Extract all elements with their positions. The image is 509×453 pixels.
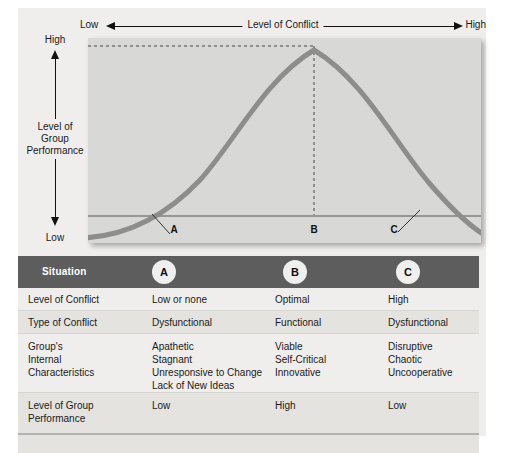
- table-header-row: Situation A B C: [18, 256, 479, 288]
- row-label: Level of Group Performance: [28, 399, 148, 425]
- plot-area: A B C: [88, 38, 481, 243]
- x-axis-left-arrow-icon: [106, 22, 115, 30]
- row-label: Level of Conflict: [28, 293, 148, 306]
- x-axis: Low Level of Conflict High: [80, 18, 486, 36]
- y-axis-high-label: High: [24, 34, 86, 45]
- plot-marker-a: A: [170, 224, 177, 235]
- performance-curve: [88, 50, 481, 238]
- row-value-b: Viable Self-Critical Innovative: [275, 340, 387, 379]
- y-axis-up-arrow-icon: [51, 50, 59, 59]
- table-row: Type of Conflict Dysfunctional Functiona…: [18, 311, 479, 334]
- y-axis-title-line-2: Group: [21, 133, 89, 145]
- table-header-badge-c: C: [396, 260, 420, 284]
- row-value-b: High: [275, 399, 387, 412]
- y-axis-title-line-3: Performance: [21, 145, 89, 157]
- plot-marker-b: B: [310, 224, 317, 235]
- y-axis-down-arrow-icon: [51, 217, 59, 226]
- x-axis-title: Level of Conflict: [242, 19, 323, 30]
- y-axis-title-line-1: Level of: [21, 121, 89, 133]
- plot-marker-c: C: [390, 224, 397, 235]
- marker-a-leader-line: [152, 214, 170, 234]
- table-row: Group's Internal Characteristics Apathet…: [18, 334, 479, 393]
- row-value-b: Optimal: [275, 293, 387, 306]
- y-axis-title: Level of Group Performance: [21, 119, 89, 159]
- row-value-a: Dysfunctional: [152, 316, 277, 329]
- row-value-a: Low or none: [152, 293, 277, 306]
- x-axis-low-label: Low: [80, 19, 98, 30]
- table-bottom-rule: [18, 433, 479, 435]
- table-header-badge-b: B: [283, 260, 307, 284]
- x-axis-right-arrow-icon: [454, 22, 463, 30]
- row-value-c: Disruptive Chaotic Uncooperative: [388, 340, 483, 379]
- row-label: Group's Internal Characteristics: [28, 340, 148, 379]
- table-header-title: Situation: [42, 266, 87, 277]
- y-axis-low-label: Low: [24, 232, 86, 243]
- row-value-c: Dysfunctional: [388, 316, 483, 329]
- x-axis-high-label: High: [465, 19, 486, 30]
- row-value-a: Low: [152, 399, 277, 412]
- marker-c-leader-line: [398, 210, 420, 232]
- row-label: Type of Conflict: [28, 316, 148, 329]
- situation-table: Situation A B C Level of Conflict Low or…: [18, 256, 479, 453]
- row-value-b: Functional: [275, 316, 387, 329]
- row-value-c: Low: [388, 399, 483, 412]
- row-value-c: High: [388, 293, 483, 306]
- conflict-performance-chart: Low Level of Conflict High High Level of…: [18, 8, 486, 250]
- y-axis: High Level of Group Performance Low: [24, 34, 86, 242]
- row-value-a: Apathetic Stagnant Unresponsive to Chang…: [152, 340, 277, 392]
- table-row: Level of Conflict Low or none Optimal Hi…: [18, 288, 479, 311]
- table-header-badge-a: A: [152, 260, 176, 284]
- plot-svg: [88, 38, 481, 243]
- table-row: Level of Group Performance Low High Low: [18, 393, 479, 453]
